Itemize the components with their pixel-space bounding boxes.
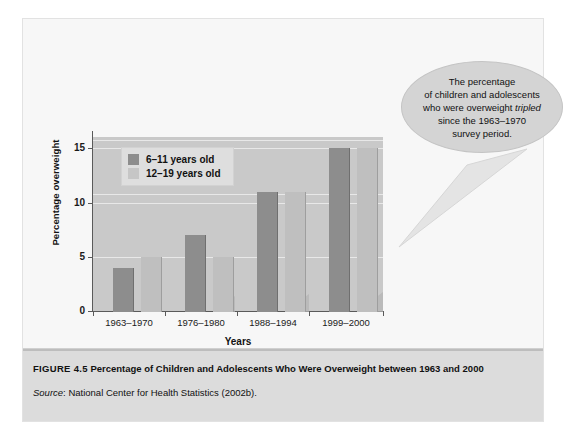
x-tick-mark-1	[165, 312, 166, 316]
callout-line-3a: who were overweight	[423, 102, 515, 113]
callout-annotation: The percentage of children and adolescen…	[401, 61, 563, 153]
callout-emphasis: tripled	[515, 102, 541, 113]
bar-1988-1994-6-11	[257, 192, 278, 312]
callout-line-2: of children and adolescents	[424, 89, 540, 100]
figure-title: Percentage of Children and Adolescents W…	[90, 363, 483, 374]
legend-swatch-icon	[128, 168, 139, 179]
legend-swatch-icon	[128, 154, 139, 165]
chart-area: 0 5 10 15 Percentage overweight	[23, 19, 543, 349]
bar-1999-2000-6-11	[329, 148, 350, 312]
callout-line-1: The percentage	[449, 76, 516, 87]
source-label: Source	[33, 387, 63, 398]
x-tick-mark-4	[383, 312, 384, 316]
legend-item-12-19: 12–19 years old	[128, 166, 221, 180]
bar-1963-1970-12-19	[141, 257, 162, 312]
figure-number: FIGURE 4.5	[33, 363, 88, 374]
callout-line-4: since the 1963–1970	[438, 115, 526, 126]
x-tick-mark-0	[93, 312, 94, 316]
caption-divider	[23, 349, 543, 351]
bar-1976-1980-12-19	[213, 257, 234, 312]
callout-bubble: The percentage of children and adolescen…	[401, 61, 563, 153]
bar-1963-1970-6-11	[113, 268, 134, 312]
y-tick-label-0: 0	[59, 306, 85, 316]
caption-block: FIGURE 4.5 Percentage of Children and Ad…	[23, 348, 543, 421]
chart-legend: 6–11 years old 12–19 years old	[121, 147, 234, 186]
x-category-label-1963-1970: 1963–1970	[89, 317, 169, 328]
figure-caption: FIGURE 4.5 Percentage of Children and Ad…	[33, 363, 533, 374]
source-text: : National Center for Health Statistics …	[63, 387, 257, 398]
bar-1988-1994-12-19	[285, 192, 306, 312]
figure-source: Source: National Center for Health Stati…	[33, 387, 533, 398]
x-category-label-1999-2000: 1999–2000	[306, 317, 386, 328]
x-tick-mark-2	[237, 312, 238, 316]
bar-1999-2000-12-19	[357, 148, 378, 312]
callout-text: The percentage of children and adolescen…	[413, 75, 551, 140]
callout-line-5: survey period.	[452, 128, 512, 139]
x-category-label-1976-1980: 1976–1980	[161, 317, 241, 328]
x-category-label-1988-1994: 1988–1994	[233, 317, 313, 328]
figure-container: 0 5 10 15 Percentage overweight	[22, 18, 544, 422]
bar-1976-1980-6-11	[185, 235, 206, 312]
y-axis-title: Percentage overweight	[50, 138, 61, 248]
legend-item-6-11: 6–11 years old	[128, 152, 221, 166]
y-tick-label-15: 15	[59, 143, 85, 153]
y-tick-label-5: 5	[59, 252, 85, 262]
legend-label-12-19: 12–19 years old	[146, 168, 221, 179]
y-tick-label-10: 10	[59, 198, 85, 208]
x-tick-mark-3	[309, 312, 310, 316]
legend-label-6-11: 6–11 years old	[146, 154, 214, 165]
x-axis-title: Years	[93, 336, 383, 347]
